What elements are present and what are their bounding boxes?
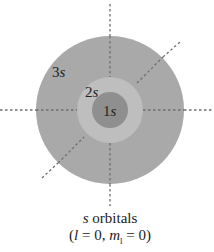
axis-diagonal-upper-outer: [163, 42, 180, 57]
caption-orbitals: orbitals: [89, 210, 138, 226]
caption-title: s orbitals: [40, 210, 180, 227]
caption-m-eq: = 0): [123, 227, 151, 243]
label-1s: 1s: [103, 103, 117, 119]
caption-quantum-numbers: (l = 0, ml = 0): [40, 227, 180, 250]
label-3s: 3s: [52, 64, 66, 80]
caption-m-symbol: m: [109, 227, 120, 243]
caption-l-eq: = 0,: [78, 227, 109, 243]
label-2s: 2s: [85, 84, 99, 100]
axis-diagonal-lower-outer: [42, 163, 58, 178]
